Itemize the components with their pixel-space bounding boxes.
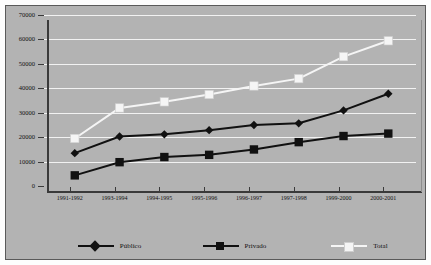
- gridline: [42, 162, 416, 163]
- gridline: [42, 137, 416, 138]
- y-axis-line: [47, 20, 49, 192]
- data-point-marker: [205, 126, 213, 134]
- y-axis-tick-label: 40000: [6, 84, 35, 91]
- legend-item-privado[interactable]: Privado: [172, 241, 297, 251]
- data-point-marker: [339, 52, 347, 60]
- series-line: [75, 94, 389, 153]
- legend-label: Total: [373, 242, 387, 250]
- data-point-marker: [295, 74, 303, 82]
- x-axis-tick-label: 1996-1997: [236, 195, 262, 201]
- data-point-marker: [71, 149, 79, 157]
- series-line: [75, 41, 389, 139]
- gridline: [42, 64, 416, 65]
- chart-legend: PúblicoPrivadoTotal: [47, 238, 422, 254]
- x-axis-tick-label: 1994-1995: [146, 195, 172, 201]
- y-axis-tick: [38, 186, 44, 187]
- y-axis-tick-label: 10000: [6, 158, 35, 165]
- series-line: [75, 134, 389, 176]
- data-point-marker: [71, 171, 79, 179]
- data-point-marker: [115, 104, 123, 112]
- data-point-marker: [205, 151, 213, 159]
- x-axis-tick-label: 1995-1996: [191, 195, 217, 201]
- y-axis-tick-label: 70000: [6, 11, 35, 18]
- gridline: [42, 88, 416, 89]
- data-point-marker: [71, 134, 79, 142]
- x-axis-tick-label: 1999-2000: [326, 195, 352, 201]
- y-axis-tick-label: 50000: [6, 60, 35, 67]
- y-axis-tick: [38, 15, 44, 16]
- legend-label: Privado: [245, 242, 267, 250]
- legend-label: Público: [120, 242, 141, 250]
- gridline: [42, 113, 416, 114]
- legend-item-total[interactable]: Total: [297, 241, 422, 251]
- legend-marker: [89, 240, 100, 251]
- y-axis-tick: [38, 39, 44, 40]
- x-axis-tick-label: 2000-2001: [370, 195, 396, 201]
- chart-title: [6, 3, 431, 9]
- data-point-marker: [384, 90, 392, 98]
- square-marker: [331, 241, 367, 251]
- data-point-marker: [160, 98, 168, 106]
- series-pblico: [71, 90, 393, 158]
- y-axis-tick: [38, 64, 44, 65]
- y-axis-tick-label: 20000: [6, 133, 35, 140]
- data-point-marker: [160, 153, 168, 161]
- series-total: [71, 37, 393, 143]
- gridline: [42, 39, 416, 40]
- plot-right-edge: [421, 20, 422, 192]
- data-point-marker: [250, 121, 258, 129]
- y-axis-tick: [38, 113, 44, 114]
- y-axis-tick: [38, 88, 44, 89]
- diamond-marker: [78, 241, 114, 251]
- y-axis-tick: [38, 162, 44, 163]
- data-point-marker: [384, 37, 392, 45]
- data-point-marker: [295, 138, 303, 146]
- chart-plot-canvas: 010000200003000040000500006000070000 199…: [5, 5, 426, 260]
- y-axis-tick-label: 60000: [6, 35, 35, 42]
- y-axis-tick-label: 30000: [6, 109, 35, 116]
- data-point-marker: [339, 132, 347, 140]
- x-axis-line: [47, 191, 422, 193]
- legend-marker: [216, 242, 224, 250]
- y-axis-tick: [38, 137, 44, 138]
- legend-marker: [344, 242, 354, 252]
- x-axis-tick-label: 1993-1994: [102, 195, 128, 201]
- chart-figure: 010000200003000040000500006000070000 199…: [0, 0, 431, 265]
- square-marker: [203, 241, 239, 251]
- series-plot: [6, 6, 431, 265]
- y-axis-tick-label: 0: [6, 182, 35, 189]
- data-point-marker: [205, 90, 213, 98]
- x-axis-tick-label: 1991-1992: [57, 195, 83, 201]
- legend-item-pblico[interactable]: Público: [47, 241, 172, 251]
- data-point-marker: [250, 145, 258, 153]
- gridline: [42, 15, 416, 16]
- x-axis-tick-label: 1997-1998: [281, 195, 307, 201]
- data-point-marker: [295, 119, 303, 127]
